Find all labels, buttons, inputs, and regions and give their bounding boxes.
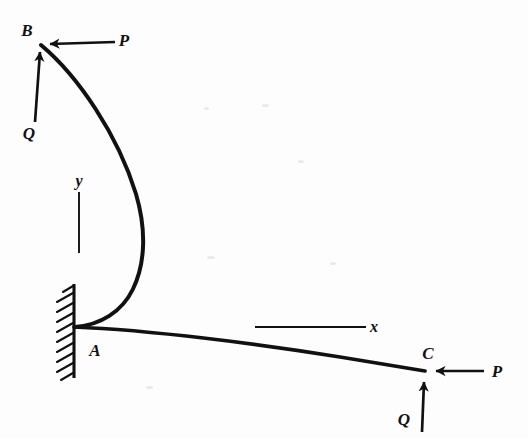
label-axis-y: y [75, 173, 82, 189]
buckled-member-ba [41, 45, 143, 327]
force-arrow-q-top [35, 52, 40, 122]
label-point-c: C [422, 345, 433, 362]
force-arrow-q-bottom [422, 382, 424, 432]
label-force-p-top: P [119, 32, 129, 49]
figure-canvas: B A C P Q P Q x y [0, 0, 528, 438]
label-point-b: B [21, 22, 32, 39]
label-force-q-top: Q [23, 125, 35, 142]
label-axis-x: x [370, 319, 378, 335]
label-force-q-bottom: Q [398, 411, 410, 428]
label-point-a: A [89, 342, 100, 359]
label-force-p-right: P [492, 363, 502, 380]
fixed-support [57, 284, 74, 380]
force-arrow-p-top [50, 42, 115, 44]
diagram-svg [0, 0, 528, 438]
support-hatching [57, 286, 73, 380]
